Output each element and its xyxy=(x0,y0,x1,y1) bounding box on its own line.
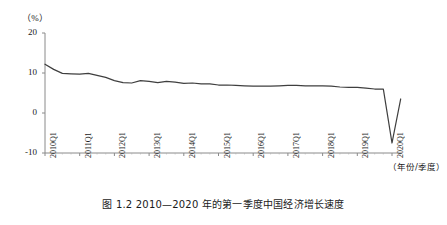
x-tick-label: 2019Q1 xyxy=(361,132,370,158)
x-tick-label: 2011Q1 xyxy=(84,133,93,158)
x-tick-label: 2017Q1 xyxy=(292,132,301,158)
x-tick-label: 2010Q1 xyxy=(49,132,58,158)
growth-rate-line xyxy=(45,64,401,143)
x-tick-label: 2015Q1 xyxy=(223,132,232,158)
line-chart-plot xyxy=(0,0,447,225)
x-tick-label: 2018Q1 xyxy=(327,132,336,158)
x-tick-label: 2012Q1 xyxy=(118,132,127,158)
x-tick-label: 2020Q1 xyxy=(396,132,405,158)
y-tick-label: 10 xyxy=(15,67,37,77)
y-tick-label: 0 xyxy=(15,107,37,117)
x-tick-label: 2016Q1 xyxy=(257,132,266,158)
figure-caption: 图 1.2 2010—2020 年的第一季度中国经济增长速度 xyxy=(0,196,447,211)
x-tick-label: 2013Q1 xyxy=(153,132,162,158)
y-tick-label: -10 xyxy=(15,147,37,157)
x-tick-label: 2014Q1 xyxy=(188,132,197,158)
figure-container: （%） （年份/季度） 20100-10 2010Q12011Q12012Q12… xyxy=(0,0,447,225)
y-tick-label: 20 xyxy=(15,27,37,37)
